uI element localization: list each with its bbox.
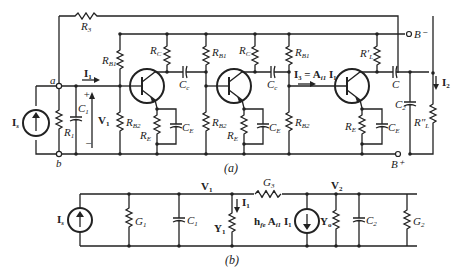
label-r1: R1 — [63, 126, 74, 140]
label-minus: − — [85, 137, 92, 149]
label-g2: G2 — [413, 215, 425, 229]
label-rb2-2: RB2 — [211, 116, 227, 130]
label-cc2: Cc — [267, 78, 278, 92]
label-is: Is — [12, 116, 19, 130]
label-a: a — [50, 74, 56, 86]
label-rb1-2: RB1 — [211, 46, 227, 60]
label-ce3: CE — [388, 121, 400, 135]
label-rb1: RB1 — [101, 54, 117, 68]
label-c1-b: C1 — [187, 214, 198, 228]
label-i1-b: I1 — [242, 196, 250, 210]
label-b-plus: B⁺ — [391, 158, 405, 170]
label-b-minus: B⁻ — [414, 28, 428, 40]
label-c-out: C — [392, 78, 400, 90]
subfigure-b: Is G1 C1 V1 Y1 I1 G3 hfe Ai1 I₁ Yo V2 — [57, 176, 425, 267]
label-re3: RE — [344, 120, 357, 134]
terminal-a — [56, 83, 61, 88]
label-i1: I1 — [84, 67, 92, 81]
label-plus: + — [83, 88, 90, 100]
label-ce2: CE — [269, 121, 281, 135]
label-c2: C2 — [395, 98, 406, 112]
label-is-b: Is — [57, 213, 64, 227]
label-rb2-3: RB2 — [294, 116, 310, 130]
subfigure-a: R3 B⁻ a b Is R1 C1 + − V1 I1 — [12, 13, 450, 175]
label-yo: Yo — [320, 215, 332, 229]
label-rl-dprime: R″L — [413, 116, 429, 130]
label-v2: V2 — [331, 179, 343, 193]
stage-2: RB1 RB2 RC RE CE Cc — [203, 32, 289, 156]
label-g1: G1 — [135, 215, 146, 229]
label-rc1: RC — [149, 44, 162, 58]
label-v1: V1 — [98, 114, 110, 128]
label-rl-prime: R′L — [359, 47, 373, 61]
circuit-figure: R3 B⁻ a b Is R1 C1 + − V1 I1 — [0, 0, 466, 275]
label-rb1-3: RB1 — [294, 46, 310, 60]
terminal-b-minus — [407, 32, 412, 37]
label-c2-b: C2 — [366, 214, 377, 228]
label-cc1: Cc — [179, 78, 190, 92]
label-i3-equation: I₃ = Ai1 I₁ — [294, 68, 336, 82]
terminal-b-plus — [396, 152, 401, 157]
label-r3: R3 — [80, 20, 92, 34]
label-y1: Y1 — [214, 222, 226, 236]
label-i2: I2 — [442, 76, 450, 90]
label-re2: RE — [226, 129, 239, 143]
caption-b: (b) — [225, 253, 239, 267]
label-re1: RE — [139, 129, 152, 143]
label-c1: C1 — [78, 102, 89, 116]
caption-a: (a) — [224, 161, 238, 175]
label-v1-b: V1 — [201, 180, 213, 194]
label-b: b — [56, 157, 62, 169]
label-g3: G3 — [263, 176, 275, 190]
stage-1: RB1 RB2 RC RE CE Cc — [101, 32, 206, 156]
label-ce1: CE — [182, 121, 194, 135]
label-rc2: RC — [238, 44, 251, 58]
label-rb2: RB2 — [125, 116, 141, 130]
terminal-b — [56, 151, 61, 156]
label-dependent-source: hfe Ai1 I₁ — [254, 215, 291, 229]
